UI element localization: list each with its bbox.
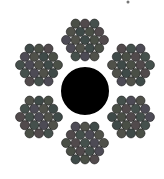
speck-mark bbox=[127, 1, 130, 4]
strand-top bbox=[62, 19, 109, 61]
wire bbox=[66, 130, 75, 139]
wire bbox=[136, 129, 145, 138]
wire bbox=[39, 104, 48, 113]
wire bbox=[44, 60, 53, 69]
wire bbox=[34, 112, 43, 121]
strand-upper-right bbox=[108, 44, 155, 86]
wire bbox=[71, 35, 80, 44]
wire bbox=[76, 27, 85, 36]
wire bbox=[39, 52, 48, 61]
wire bbox=[90, 19, 99, 28]
wire bbox=[85, 147, 94, 156]
wire bbox=[122, 52, 131, 61]
wire bbox=[122, 121, 131, 130]
wire bbox=[62, 35, 71, 44]
wire bbox=[126, 112, 135, 121]
wire bbox=[49, 52, 58, 61]
wire bbox=[76, 147, 85, 156]
wire bbox=[136, 96, 145, 105]
wire bbox=[44, 77, 53, 86]
wire bbox=[16, 60, 25, 69]
wire bbox=[20, 69, 29, 78]
wire bbox=[126, 60, 135, 69]
wire bbox=[71, 155, 80, 164]
wire bbox=[95, 27, 104, 36]
wire bbox=[117, 96, 126, 105]
wire bbox=[108, 60, 117, 69]
wire bbox=[39, 69, 48, 78]
wire bbox=[44, 112, 53, 121]
wire bbox=[112, 104, 121, 113]
wire bbox=[112, 52, 121, 61]
strand-lower-left bbox=[16, 96, 63, 138]
wire-rope-diagram bbox=[0, 0, 164, 179]
wire bbox=[131, 121, 140, 130]
wire bbox=[25, 60, 34, 69]
wire bbox=[62, 138, 71, 147]
wire bbox=[112, 121, 121, 130]
wire bbox=[44, 129, 53, 138]
wire bbox=[131, 104, 140, 113]
wire bbox=[117, 77, 126, 86]
wire bbox=[71, 122, 80, 131]
wire bbox=[39, 121, 48, 130]
wire bbox=[122, 69, 131, 78]
wire bbox=[145, 60, 154, 69]
wire bbox=[20, 104, 29, 113]
wire bbox=[76, 130, 85, 139]
wire bbox=[53, 60, 62, 69]
wire bbox=[80, 52, 89, 61]
wire bbox=[145, 112, 154, 121]
wire bbox=[30, 69, 39, 78]
wire bbox=[20, 52, 29, 61]
wire bbox=[34, 129, 43, 138]
wire bbox=[66, 147, 75, 156]
wire bbox=[76, 44, 85, 53]
wire bbox=[122, 104, 131, 113]
wire bbox=[90, 122, 99, 131]
wire bbox=[34, 96, 43, 105]
wire bbox=[85, 27, 94, 36]
wire bbox=[44, 96, 53, 105]
wire bbox=[25, 96, 34, 105]
wire bbox=[16, 112, 25, 121]
wire bbox=[131, 69, 140, 78]
wire bbox=[80, 122, 89, 131]
wire bbox=[30, 104, 39, 113]
wire bbox=[30, 52, 39, 61]
wire bbox=[126, 96, 135, 105]
wire bbox=[90, 35, 99, 44]
wire bbox=[49, 104, 58, 113]
wire bbox=[141, 121, 150, 130]
wire bbox=[141, 52, 150, 61]
wire bbox=[80, 138, 89, 147]
wire bbox=[95, 44, 104, 53]
wire bbox=[141, 69, 150, 78]
wire bbox=[80, 155, 89, 164]
wire bbox=[34, 77, 43, 86]
wire bbox=[95, 130, 104, 139]
wire bbox=[136, 44, 145, 53]
wire bbox=[66, 44, 75, 53]
wire bbox=[136, 112, 145, 121]
wire bbox=[85, 130, 94, 139]
wire bbox=[25, 77, 34, 86]
wire bbox=[126, 44, 135, 53]
wire bbox=[25, 112, 34, 121]
wire bbox=[34, 44, 43, 53]
wire bbox=[117, 112, 126, 121]
wire bbox=[90, 52, 99, 61]
wire bbox=[95, 147, 104, 156]
wire bbox=[66, 27, 75, 36]
wire bbox=[25, 44, 34, 53]
wire bbox=[53, 112, 62, 121]
wire bbox=[25, 129, 34, 138]
wire bbox=[49, 121, 58, 130]
wire bbox=[71, 19, 80, 28]
wire bbox=[71, 52, 80, 61]
wire bbox=[49, 69, 58, 78]
wire bbox=[85, 44, 94, 53]
wire bbox=[117, 60, 126, 69]
wire bbox=[44, 44, 53, 53]
wire bbox=[90, 155, 99, 164]
